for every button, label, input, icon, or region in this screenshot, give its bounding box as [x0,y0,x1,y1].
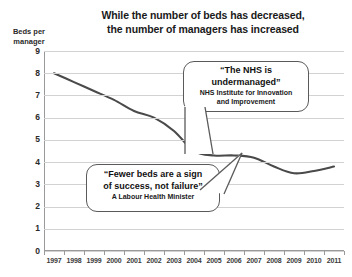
x-axis-tick-mark [124,251,125,255]
x-axis-tick-mark [84,251,85,255]
callout-1-tail-icon [183,104,243,156]
chart-title-line-1: While the number of beds has decreased, [62,8,344,22]
x-axis-tick-mark [284,251,285,255]
x-axis-tick-mark [164,251,165,255]
x-axis-tick-mark [184,251,185,255]
y-axis-label-line-2: manager [8,37,50,47]
y-axis-tick-label: 4 [6,158,40,167]
x-axis-tick-mark [244,251,245,255]
y-axis-tick-label: 7 [6,91,40,100]
y-axis-tick-label: 1 [6,224,40,233]
callout-1-quote-line-1: “The NHS is [184,65,308,77]
gridline [44,229,344,230]
x-axis-tick-mark [144,251,145,255]
y-axis-tick-label: 3 [6,180,40,189]
x-axis-tick-mark [344,251,345,255]
y-axis-tick-label: 9 [6,47,40,56]
y-axis-tick-label: 5 [6,135,40,144]
chart-title-line-2: the number of managers has increased [62,22,344,36]
x-axis-tick-mark [44,251,45,255]
y-axis-tick-labels: 9876543210 [0,51,40,251]
callout-2-tail-icon [196,150,248,196]
y-axis-tick-label: 8 [6,69,40,78]
x-axis-tick-label: 2011 [319,257,349,264]
x-axis-tick-mark [324,251,325,255]
chart-title: While the number of beds has decreased, … [62,8,344,36]
x-axis-tick-mark [64,251,65,255]
x-axis-tick-mark [104,251,105,255]
y-axis-label-line-1: Beds per [8,27,50,37]
y-axis-tick-label: 6 [6,113,40,122]
gridline [44,51,344,52]
chart-figure: While the number of beds has decreased, … [0,0,352,277]
x-axis-tick-mark [264,251,265,255]
gridline [44,251,344,252]
callout-1-quote-line-2: undermanaged” [184,77,308,89]
y-axis-label: Beds per manager [8,27,50,46]
y-axis-tick-label: 2 [6,202,40,211]
callout-1-attribution-line-1: NHS Institute for Innovation [184,88,308,97]
x-axis-tick-mark [304,251,305,255]
x-axis-tick-mark [224,251,225,255]
x-axis-tick-mark [204,251,205,255]
y-axis-tick-label: 0 [6,247,40,256]
gridline [44,162,344,163]
